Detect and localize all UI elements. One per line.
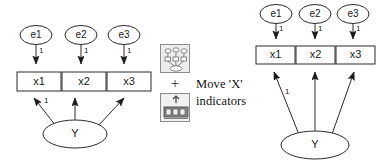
edge-weight-e3: 1 [356, 24, 361, 33]
node-e1-label: e1 [270, 8, 282, 19]
right-error-nodes: e1 e2 e3 [260, 5, 369, 24]
node-x1-label: x1 [270, 48, 282, 60]
caption-line-2: indicators [196, 93, 270, 110]
action-column: + [158, 44, 192, 122]
edge-weight-e2: 1 [318, 24, 323, 33]
edge-weight-Y-x1: 1 [285, 87, 290, 96]
node-x3-label: x3 [350, 48, 362, 60]
right-error-edges: 1 1 1 [276, 24, 361, 39]
path-diagram-icon[interactable] [160, 44, 190, 73]
node-Y-label: Y [311, 138, 319, 150]
right-loading-edges: 1 [274, 72, 354, 137]
caption-text: Move 'X' indicators [196, 76, 270, 110]
edge-weight-e1: 1 [279, 24, 284, 33]
figure-canvas: 1 1 1 1 e1 e2 e3 x1 x2 x3 [0, 0, 382, 163]
node-x2-label: x2 [310, 48, 322, 60]
move-object-icon[interactable] [160, 93, 190, 122]
caption-line-1: Move 'X' [196, 76, 270, 93]
right-latent-node: Y [281, 131, 349, 159]
plus-operator: + [171, 76, 179, 90]
right-indicator-boxes: x1 x2 x3 [256, 46, 375, 64]
edge-Y-to-x3 [331, 72, 354, 137]
node-e2-label: e2 [309, 8, 321, 19]
edge-Y-to-x1 [274, 72, 300, 137]
node-e3-label: e3 [347, 8, 359, 19]
